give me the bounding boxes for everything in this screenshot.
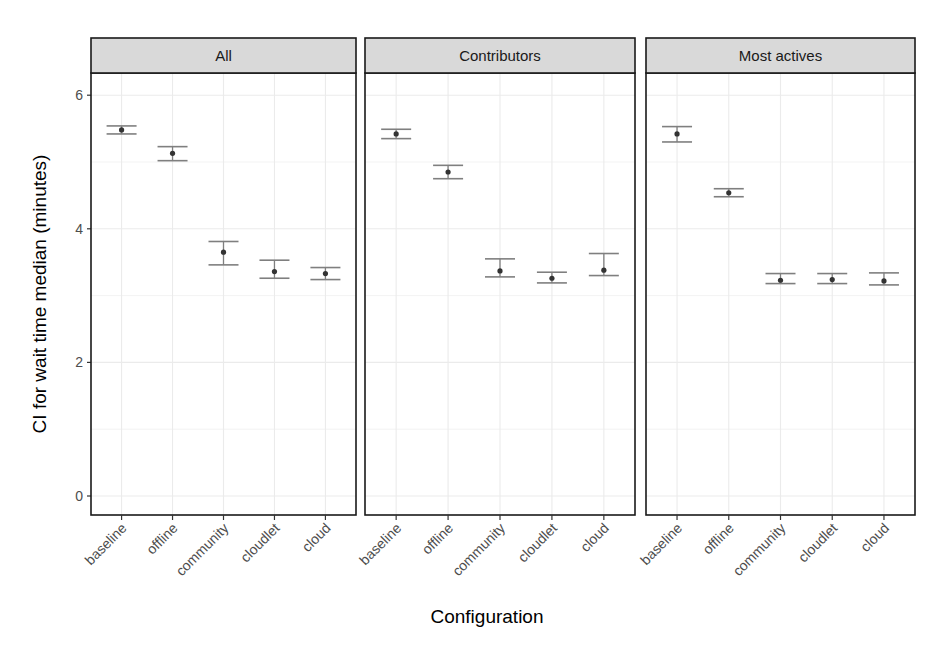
- median-point: [601, 268, 606, 273]
- median-point: [445, 169, 450, 174]
- y-tick-label: 6: [75, 87, 83, 103]
- x-tick-label: cloudlet: [795, 520, 841, 566]
- facet-strip-label: All: [215, 47, 232, 64]
- y-axis-title: CI for wait time median (minutes): [29, 155, 50, 434]
- y-tick-label: 0: [75, 488, 83, 504]
- facet-strip-label: Contributors: [459, 47, 541, 64]
- x-tick-label: community: [172, 520, 231, 579]
- median-point: [778, 278, 783, 283]
- facet-panel-all: Allbaselineofflinecommunitycloudletcloud: [82, 38, 356, 579]
- y-axis: 0246: [75, 87, 91, 504]
- x-tick-label: community: [729, 520, 788, 579]
- median-point: [394, 131, 399, 136]
- median-point: [830, 277, 835, 282]
- median-point: [549, 276, 554, 281]
- median-point: [497, 268, 502, 273]
- x-tick-label: offline: [699, 520, 737, 558]
- x-tick-label: community: [449, 520, 508, 579]
- median-point: [170, 151, 175, 156]
- x-tick-label: cloud: [299, 520, 334, 555]
- y-tick-label: 4: [75, 221, 83, 237]
- x-tick-label: cloudlet: [237, 520, 283, 566]
- median-point: [323, 271, 328, 276]
- facet-panel-contributors: Contributorsbaselineofflinecommunityclou…: [356, 38, 635, 579]
- x-tick-label: baseline: [82, 520, 130, 568]
- x-axis-title: Configuration: [430, 606, 543, 627]
- x-tick-label: cloud: [857, 520, 892, 555]
- x-tick-label: cloudlet: [515, 520, 561, 566]
- faceted-errorbar-chart: 0246 Allbaselineofflinecommunitycloudlet…: [0, 0, 952, 658]
- median-point: [674, 131, 679, 136]
- x-tick-label: baseline: [637, 520, 685, 568]
- median-point: [119, 127, 124, 132]
- x-tick-label: baseline: [356, 520, 404, 568]
- median-point: [726, 190, 731, 195]
- x-tick-label: offline: [143, 520, 181, 558]
- median-point: [881, 278, 886, 283]
- x-tick-label: cloud: [577, 520, 612, 555]
- facet-strip-label: Most actives: [739, 47, 822, 64]
- facet-panels: Allbaselineofflinecommunitycloudletcloud…: [82, 38, 915, 579]
- facet-panel-most-actives: Most activesbaselineofflinecommunityclou…: [637, 38, 915, 579]
- x-tick-label: offline: [419, 520, 457, 558]
- median-point: [221, 250, 226, 255]
- median-point: [272, 269, 277, 274]
- y-tick-label: 2: [75, 354, 83, 370]
